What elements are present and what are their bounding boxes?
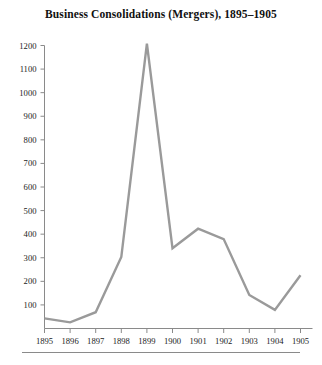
x-axis-tick-label: 1904	[266, 336, 284, 346]
x-axis-tick-label: 1905	[292, 336, 309, 346]
x-axis: 1895189618971898189919001901190219031904…	[36, 329, 313, 346]
y-axis-tick-label: 500	[24, 206, 37, 216]
chart-figure: Business Consolidations (Mergers), 1895–…	[0, 0, 322, 365]
x-axis-tick-label: 1896	[62, 336, 80, 346]
x-axis-tick-label: 1901	[190, 336, 207, 346]
series-line-0	[45, 44, 301, 323]
y-axis-tick-label: 400	[24, 229, 37, 239]
x-axis-tick-label: 1897	[87, 336, 105, 346]
x-axis-tick-label: 1895	[36, 336, 53, 346]
y-axis-tick-label: 1200	[19, 41, 36, 51]
y-axis-tick-label: 200	[24, 276, 37, 286]
y-axis-tick-label: 100	[24, 300, 37, 310]
y-axis-tick-label: 900	[24, 111, 37, 121]
y-axis-tick-label: 300	[24, 253, 37, 263]
line-chart-plot: 100200300400500600700800900100011001200 …	[0, 0, 322, 365]
x-axis-tick-label: 1903	[241, 336, 258, 346]
data-series	[45, 44, 301, 323]
y-axis-tick-label: 1000	[19, 88, 36, 98]
y-axis-tick-label: 700	[24, 158, 37, 168]
y-axis-tick-label: 1100	[20, 64, 37, 74]
y-axis-tick-label: 600	[24, 182, 37, 192]
x-axis-tick-label: 1900	[164, 336, 181, 346]
x-axis-tick-label: 1902	[215, 336, 232, 346]
y-axis: 100200300400500600700800900100011001200	[19, 41, 44, 329]
x-axis-tick-label: 1898	[113, 336, 130, 346]
x-axis-tick-label: 1899	[138, 336, 155, 346]
footer-rule	[22, 352, 300, 353]
y-axis-tick-label: 800	[24, 135, 37, 145]
